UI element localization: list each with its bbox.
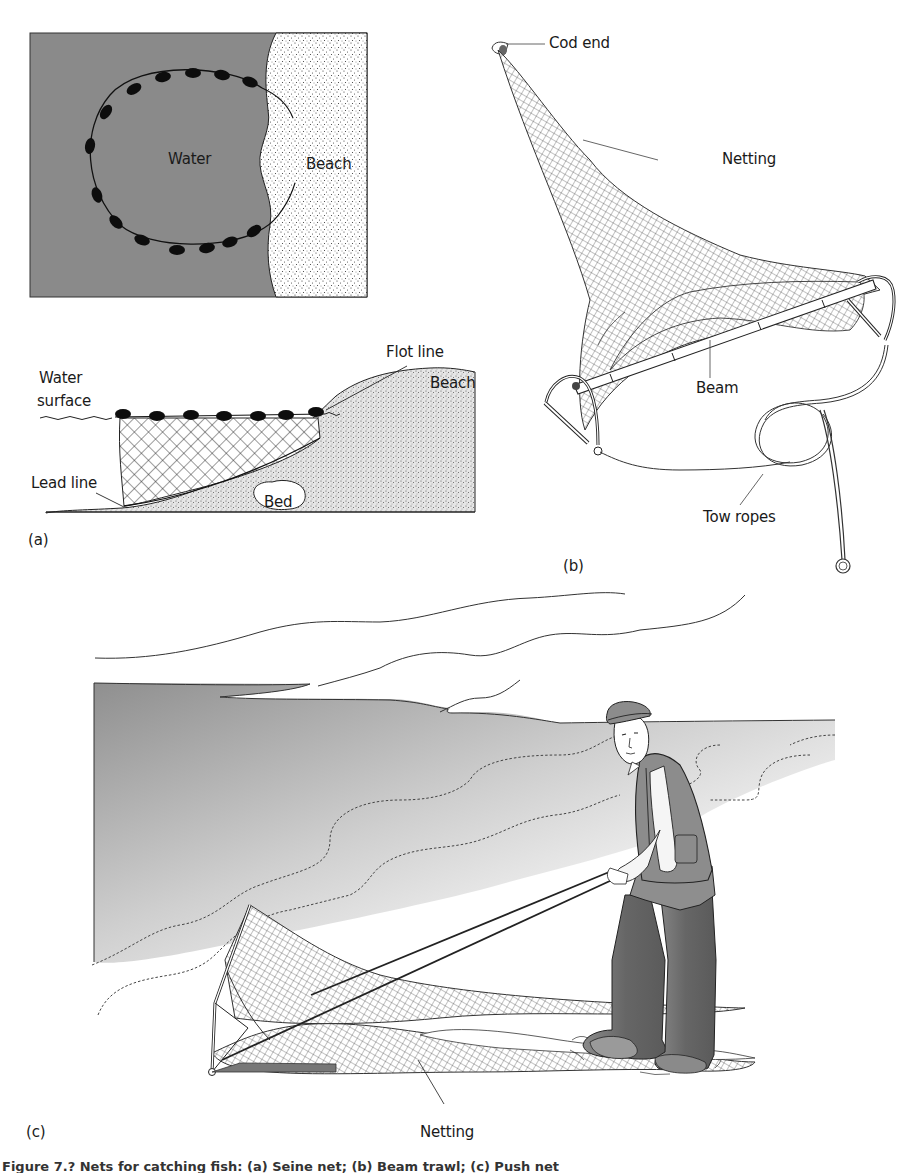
netting-label-c: Netting [420,1125,474,1140]
push-net-scene [92,593,835,1104]
panel-b-tag: (b) [563,559,584,574]
seine-net-section-view [40,366,475,513]
water-surface-label-line2: surface [37,394,91,409]
beam-label: Beam [696,381,739,396]
panel-c-tag: (c) [26,1125,45,1140]
bed-label: Bed [264,495,292,510]
water-label: Water [168,152,211,167]
figure-caption: Figure 7.? Nets for catching fish: (a) S… [0,1160,918,1173]
figure: Water Beach Water surface Flot line Beac… [0,0,918,1173]
netting-label-b: Netting [722,152,776,167]
cod-end-label: Cod end [549,36,610,51]
figure-artwork [0,0,918,1173]
water-surface-label-line1: Water [39,371,82,386]
section-beach-label: Beach [430,376,475,391]
panel-a-tag: (a) [28,533,48,548]
tow-ropes-label: Tow ropes [703,510,776,525]
beach-label: Beach [306,157,351,172]
beam-trawl-drawing [492,42,894,573]
flot-line-label: Flot line [386,345,444,360]
lead-line-label: Lead line [31,476,97,491]
